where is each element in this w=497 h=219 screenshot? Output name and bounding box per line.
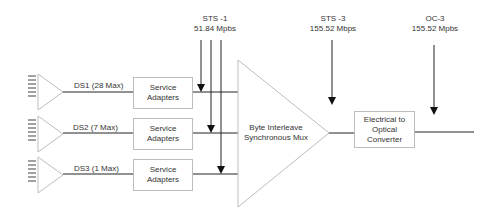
ds1-label: DS1 (28 Max) <box>74 81 123 91</box>
oc3-label: OC-3 155.52 Mpbs <box>408 14 462 34</box>
mux-label-line1: Byte Interleave <box>249 123 302 132</box>
adapter-text-line1: Service <box>147 83 179 93</box>
service-adapter-ds3: ServiceAdapters <box>133 159 193 191</box>
input-fan-ds1 <box>28 74 63 110</box>
sts1-name: STS -1 <box>203 14 228 23</box>
sts3-label: STS -3 155.52 Mbps <box>306 14 360 34</box>
sts3-arrow-head <box>328 97 336 105</box>
service-adapter-ds1: ServiceAdapters <box>133 77 193 109</box>
oc3-arrow-head <box>430 107 438 115</box>
converter-line1: Electrical to <box>364 115 405 125</box>
adapter-text-line1: Service <box>147 124 179 134</box>
input-fan-ds2 <box>28 116 63 152</box>
sts3-rate: 155.52 Mbps <box>310 24 356 33</box>
input-fan-ds3 <box>28 157 63 193</box>
converter-line3: Converter <box>364 135 405 145</box>
adapter-text-line2: Adapters <box>147 175 179 185</box>
converter-line2: Optical <box>364 125 405 135</box>
adapter-text-line2: Adapters <box>147 134 179 144</box>
electrical-to-optical-converter: Electrical toOpticalConverter <box>354 111 415 148</box>
ds2-label: DS2 (7 Max) <box>73 123 118 133</box>
ds3-label: DS3 (1 Max) <box>74 164 119 174</box>
sts1-label: STS -1 51.84 Mpbs <box>190 14 240 34</box>
oc3-name: OC-3 <box>425 14 444 23</box>
mux-label-line2: Synchronous Mux <box>244 133 308 142</box>
sts1-rate: 51.84 Mpbs <box>194 24 236 33</box>
oc3-rate: 155.52 Mpbs <box>412 24 458 33</box>
service-adapter-ds2: ServiceAdapters <box>133 118 193 150</box>
mux-label: Byte Interleave Synchronous Mux <box>244 123 308 143</box>
adapter-text-line1: Service <box>147 165 179 175</box>
sts3-name: STS -3 <box>321 14 346 23</box>
adapter-text-line2: Adapters <box>147 93 179 103</box>
sts1-arrows <box>197 40 225 174</box>
